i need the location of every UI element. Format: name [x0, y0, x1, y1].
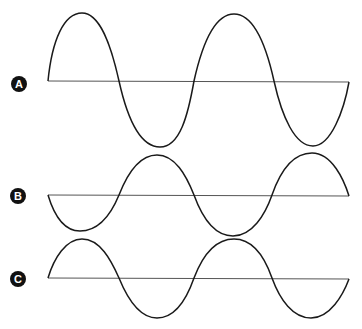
- wave-b-axis: [48, 195, 349, 196]
- wave-a-group: A: [11, 13, 349, 147]
- label-b-text: B: [14, 190, 22, 202]
- wave-c-axis: [48, 278, 349, 279]
- wave-a-curve: [48, 13, 349, 147]
- wave-diagram: A B C: [0, 0, 362, 329]
- wave-a-axis: [48, 81, 349, 82]
- wave-c-group: C: [10, 239, 349, 318]
- wave-b-group: B: [10, 153, 349, 236]
- label-a-text: A: [15, 78, 23, 90]
- wave-b-curve: [48, 153, 349, 236]
- label-c-text: C: [14, 273, 22, 285]
